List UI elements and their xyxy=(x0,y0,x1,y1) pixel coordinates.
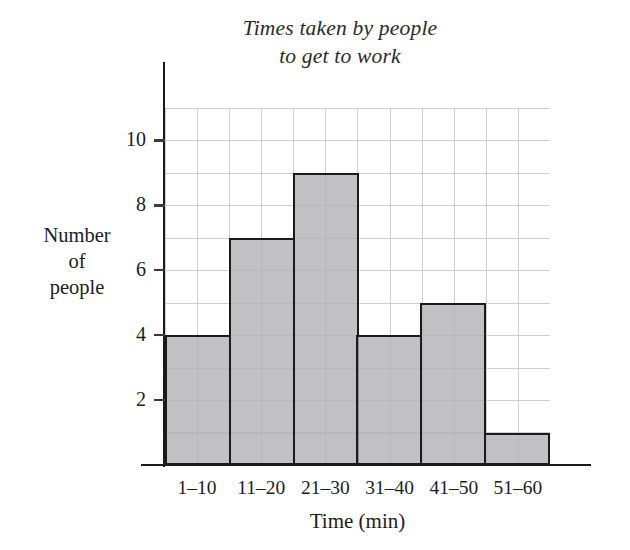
y-tick-10 xyxy=(154,139,165,141)
bar-41–50 xyxy=(420,303,486,465)
bar-51–60 xyxy=(484,433,550,465)
bar-series xyxy=(165,108,550,465)
chart-title-line-2: to get to work xyxy=(185,42,495,70)
y-tick-6 xyxy=(154,269,165,271)
x-tick-label-31–40: 31–40 xyxy=(358,476,422,500)
x-axis-title: Time (min) xyxy=(165,508,550,534)
chart-title-line-1: Times taken by people xyxy=(185,14,495,42)
y-tick-4 xyxy=(154,334,165,336)
y-tick-8 xyxy=(154,204,165,206)
y-tick-label-6: 6 xyxy=(106,259,146,279)
y-tick-2 xyxy=(154,399,165,401)
bar-1–10 xyxy=(165,335,231,465)
y-axis-title-line-1: Number xyxy=(18,222,136,248)
bar-31–40 xyxy=(356,335,422,465)
bar-21–30 xyxy=(293,173,359,465)
x-axis-line xyxy=(141,464,591,466)
bar-11–20 xyxy=(229,238,295,465)
plot-area xyxy=(165,108,550,465)
x-axis-tick-labels: 1–1011–2021–3031–4041–5051–60 xyxy=(165,476,550,500)
x-tick-label-41–50: 41–50 xyxy=(422,476,486,500)
x-tick-label-1–10: 1–10 xyxy=(165,476,229,500)
chart-title: Times taken by people to get to work xyxy=(185,14,495,70)
histogram-figure: Times taken by people to get to work Num… xyxy=(0,0,630,550)
x-tick-label-51–60: 51–60 xyxy=(486,476,550,500)
y-tick-label-8: 8 xyxy=(106,194,146,214)
x-tick-label-21–30: 21–30 xyxy=(293,476,357,500)
y-tick-label-10: 10 xyxy=(106,129,146,149)
y-tick-label-2: 2 xyxy=(106,389,146,409)
x-tick-label-11–20: 11–20 xyxy=(229,476,293,500)
y-tick-label-4: 4 xyxy=(106,324,146,344)
y-axis-line xyxy=(163,62,165,467)
